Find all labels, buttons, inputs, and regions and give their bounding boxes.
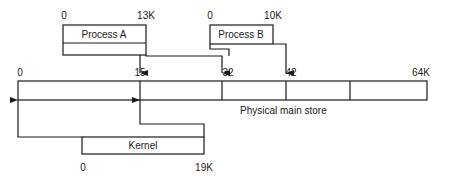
- process-a-label: Process A: [81, 30, 126, 40]
- kernel-arrow-15: [140, 100, 204, 137]
- main-store-tick-32: 32: [222, 68, 233, 78]
- main-store-tick-64k: 64K: [412, 68, 430, 78]
- process-b-end-label: 10K: [264, 11, 282, 21]
- kernel-start-label: 0: [80, 163, 86, 173]
- main-store-tick-0: 0: [17, 68, 23, 78]
- main-store-tick-15: 15: [134, 68, 145, 78]
- process-a-arrow-32: [146, 55, 222, 73]
- process-b-label: Process B: [218, 30, 264, 40]
- main-store-caption: Physical main store: [240, 106, 327, 116]
- process-a-start-label: 0: [61, 11, 67, 21]
- process-b-start-label: 0: [207, 11, 213, 21]
- process-a-end-label: 13K: [137, 11, 155, 21]
- kernel-end-label: 19K: [195, 163, 213, 173]
- main-store-tick-42: 42: [285, 68, 296, 78]
- diagram-canvas: [0, 0, 450, 178]
- process-b-arrow-32: [210, 44, 229, 56]
- kernel-arrow-0: [18, 100, 82, 137]
- process-b-arrow-42: [273, 44, 286, 73]
- kernel-label: Kernel: [129, 141, 158, 151]
